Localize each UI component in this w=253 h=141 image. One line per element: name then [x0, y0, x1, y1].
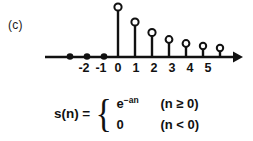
equation-case-condition: (n < 0) [160, 117, 199, 132]
equation-case-row: 0 (n < 0) [116, 116, 199, 132]
sample-marker-open [166, 36, 173, 43]
equation-case-row: e−an (n ≥ 0) [116, 95, 199, 111]
equation-case-condition: (n ≥ 0) [160, 96, 198, 111]
figure-panel-c: (c) -2 -1 0 1 2 3 4 5 [0, 0, 253, 141]
equation-left-hand-side: s(n) = [54, 106, 90, 121]
x-tick-label: 3 [169, 61, 176, 75]
equation-brace: { [96, 94, 112, 134]
x-tick-label: 2 [151, 61, 158, 75]
x-axis-tick-labels: -2 -1 0 1 2 3 4 5 [0, 61, 253, 79]
sample-marker-filled [67, 53, 74, 60]
equation-case-base: 0 [116, 117, 123, 132]
x-tick-label: 1 [133, 61, 140, 75]
sample-marker-open [200, 43, 206, 49]
sample-marker-open [114, 3, 121, 10]
equation-case-base: e [116, 96, 123, 111]
equation-block: s(n) = { e−an (n ≥ 0) 0 (n < 0) [0, 86, 253, 141]
equation-case-expression: 0 [116, 116, 150, 132]
sample-marker-open [131, 18, 138, 25]
equation-case-exponent: −an [124, 95, 139, 105]
sample-marker-open [148, 29, 155, 36]
equation-case-expression: e−an [116, 95, 150, 111]
sample-marker-filled [84, 53, 91, 60]
x-tick-label: 5 [205, 61, 212, 75]
x-tick-label: 4 [187, 61, 194, 75]
x-tick-label: -1 [95, 61, 106, 75]
x-tick-label: 0 [115, 61, 122, 75]
sample-marker-filled [101, 53, 108, 60]
sample-marker-open [217, 45, 223, 51]
equation-cases: e−an (n ≥ 0) 0 (n < 0) [116, 95, 199, 133]
x-tick-label: -2 [78, 61, 89, 75]
sample-marker-open [183, 40, 190, 47]
